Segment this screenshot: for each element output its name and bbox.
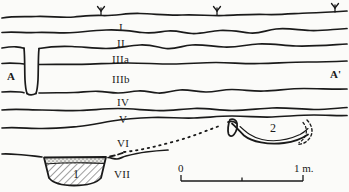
disturbance-base [27,94,36,95]
layer-label-V: V [119,114,127,125]
layer-label-IIIa: IIIa [112,54,129,65]
boundary-II-IIIa-left [2,47,24,48]
boundary-VI-VII-pit-right [108,150,168,159]
disturbance-right-wall [36,49,39,94]
boundary-IIIa-IIIb-left [2,63,24,64]
boundary-II-IIIa-right [39,44,347,49]
grass-icon [98,7,105,16]
boundary-IV-V [2,108,347,111]
stratigraphic-section-figure: I II IIIa IIIb IV V VI VII A A' 1 2 0 1 … [0,0,349,192]
section-end-label-right: A' [330,69,341,80]
boundary-IIIb-IV-left [2,92,24,93]
scale-bar [181,175,303,181]
layer-label-VII: VII [114,169,130,180]
layer-label-I: I [119,22,123,33]
layer-label-IIIb: IIIb [112,74,130,85]
feature-label-2: 2 [270,122,276,134]
section-end-label-left: A [7,71,15,82]
boundary-I-II [2,29,347,34]
boundary-VI-VII [2,154,42,157]
boundary-IIIa-IIIb-right [39,61,347,65]
layer-label-VI: VI [117,138,129,149]
boundary-V-VI [2,115,347,129]
vertical-disturbance [24,48,39,94]
scale-bar-end-label: 1 m. [294,163,314,174]
layer-label-II: II [117,38,125,49]
boundary-IIIb-IV-right [39,89,347,94]
grass-icon [214,7,221,16]
layer-label-IV: IV [117,97,129,108]
disturbance-left-wall [24,48,27,93]
boundary-surface [2,11,347,18]
scale-bar-start-label: 0 [178,163,184,174]
feature-label-1: 1 [73,168,79,180]
